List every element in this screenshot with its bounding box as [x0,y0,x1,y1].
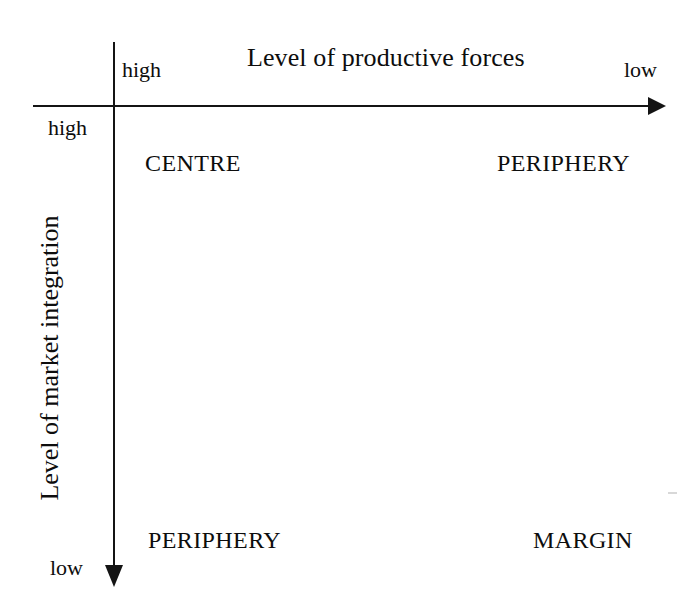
y-axis-tick-low: low [50,557,83,579]
quadrant-label-top-right: PERIPHERY [497,151,630,175]
x-axis-line [33,105,655,107]
quadrant-label-bottom-left: PERIPHERY [148,528,281,552]
x-axis-title: Level of productive forces [247,45,525,71]
quadrant-label-bottom-right: MARGIN [533,528,633,552]
x-axis-tick-high: high [122,59,161,81]
diagram-canvas: Level of productive forces high low Leve… [0,0,698,616]
x-axis-tick-low: low [624,59,657,81]
quadrant-label-top-left: CENTRE [145,151,241,175]
y-axis-title: Level of market integration [37,188,63,528]
scan-artifact [668,492,677,494]
x-axis-arrowhead-icon [648,97,666,115]
y-axis-arrowhead-icon [105,565,123,587]
y-axis-line [113,42,115,570]
y-axis-tick-high: high [48,117,87,139]
